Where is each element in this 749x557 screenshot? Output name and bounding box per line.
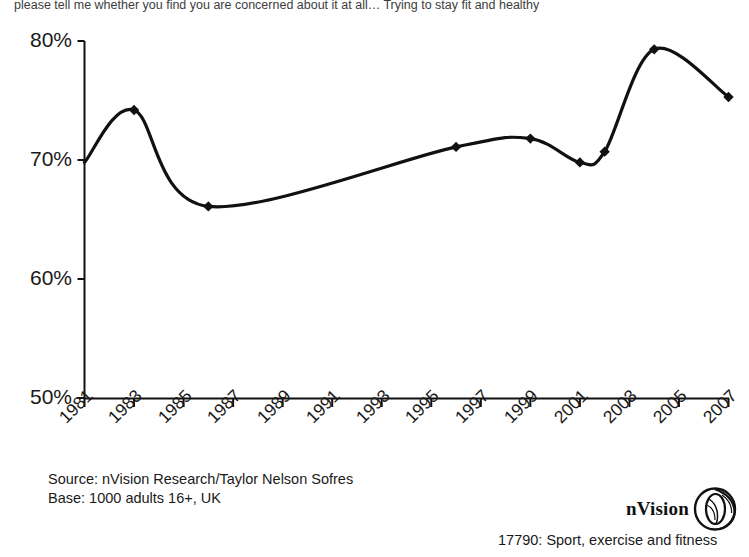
chart-caption: 17790: Sport, exercise and fitness xyxy=(498,532,717,548)
y-axis-label: 70% xyxy=(2,147,72,171)
chart-axes xyxy=(84,41,729,399)
nvision-logo: nVision xyxy=(626,487,738,531)
chart-page: please tell me whether you find you are … xyxy=(0,0,749,557)
y-axis-label: 80% xyxy=(2,28,72,52)
source-line-1: Source: nVision Research/Taylor Nelson S… xyxy=(48,470,353,489)
data-series xyxy=(85,44,734,211)
data-point-marker xyxy=(575,157,585,167)
source-note: Source: nVision Research/Taylor Nelson S… xyxy=(48,470,353,508)
nvision-logo-text: nVision xyxy=(626,498,689,520)
nvision-eye-icon xyxy=(692,487,738,531)
data-point-marker xyxy=(203,201,213,211)
y-axis-ticks xyxy=(78,41,85,398)
y-axis-label: 60% xyxy=(2,266,72,290)
data-point-marker xyxy=(451,142,461,152)
data-point-marker xyxy=(525,133,535,143)
source-line-2: Base: 1000 adults 16+, UK xyxy=(48,489,353,508)
